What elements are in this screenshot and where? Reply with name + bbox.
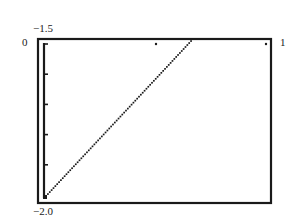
- isolated-point: [155, 43, 157, 45]
- plot-frame: [38, 39, 271, 203]
- data-line: [45, 40, 192, 197]
- plot-area: [0, 0, 299, 219]
- isolated-point: [265, 43, 267, 45]
- origin-marker: [43, 195, 47, 199]
